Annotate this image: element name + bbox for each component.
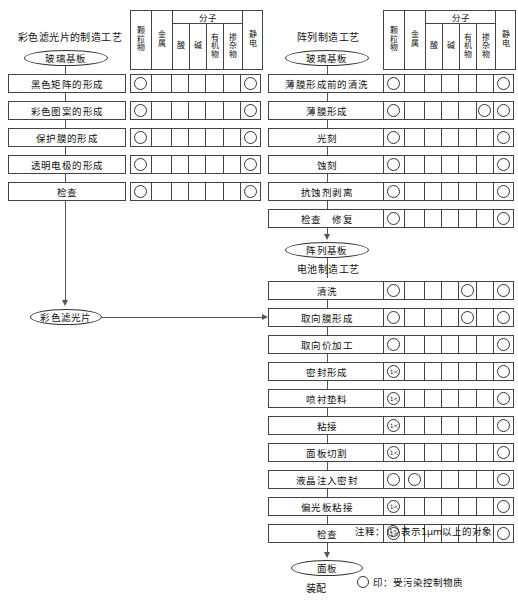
circle-mark-icon [497,338,510,351]
table-cell [189,75,206,92]
table-cell [477,309,495,326]
table-cell [477,282,495,299]
circle-mark-icon [244,185,257,198]
table-cell [459,102,477,119]
table-cell [131,129,152,146]
color-filter-contamination-table: 颗粒物金属分子酸碱有机物掺杂物静电 [130,10,261,202]
header-cell-metal: 金属 [152,11,173,69]
array-contamination-table: 颗粒物金属分子酸碱有机物掺杂物静电 [383,10,514,229]
contaminant-legend: 印：受污染控制物质 [357,575,463,589]
header-label-particle: 颗粒物 [137,27,146,53]
cf-step-box-3: 保护膜的形成 [8,128,126,147]
table-cell [384,156,405,173]
table-cell [442,183,459,200]
table-cell [131,156,152,173]
header-label-acid: 酸 [429,42,438,51]
cell-step-box-7: 面板切割 [268,443,386,462]
table-cell [494,309,513,326]
header-label-static: 静电 [248,31,257,48]
color-filter-table-row-1 [130,74,261,93]
cell-connector-2 [327,327,328,335]
header-cell-static: 静电 [496,11,515,69]
table-cell [477,102,495,119]
table-cell [405,75,426,92]
table-cell [131,183,152,200]
table-cell [405,210,426,227]
cell-step-box-6: 粘接 [268,416,386,435]
table-cell [494,156,513,173]
table-cell [172,102,189,119]
table-cell: 1< [384,390,405,407]
header-label-acid: 酸 [176,42,185,51]
table-cell [459,336,477,353]
table-cell [425,336,442,353]
table-cell [425,444,442,461]
cell-arrow-down [324,552,330,558]
circle-mark-icon [387,212,400,225]
table-cell [224,156,242,173]
table-cell [384,309,405,326]
table-cell [152,129,173,146]
table-cell [459,498,477,515]
table-cell [152,102,173,119]
table-cell [241,183,260,200]
micron-mark-icon: 1< [387,446,400,459]
header-label-molecule: 分子 [426,11,495,24]
table-cell [442,471,459,488]
table-cell [405,309,426,326]
circle-mark-icon [497,419,510,432]
table-cell [241,156,260,173]
table-cell [459,183,477,200]
cf-to-cell-connector [102,317,262,318]
table-cell [459,417,477,434]
micron-note-prefix: 注释： [355,524,385,538]
array-connector-2 [327,120,328,128]
cf-connector-2 [65,120,66,128]
header-molecule-subcolumns: 酸碱有机物掺杂物 [173,24,242,69]
table-header-row: 颗粒物金属分子酸碱有机物掺杂物静电 [383,10,516,70]
table-cell [442,444,459,461]
table-cell [425,75,442,92]
cf-connector-5 [65,201,66,304]
table-cell [206,75,224,92]
table-header-row: 颗粒物金属分子酸碱有机物掺杂物静电 [130,10,263,70]
table-cell [459,210,477,227]
table-cell [224,183,242,200]
table-cell [477,471,495,488]
table-cell [405,444,426,461]
table-cell [442,102,459,119]
table-cell [425,183,442,200]
array-table-row-2 [383,101,514,120]
cell-connector-9 [327,516,328,524]
table-cell [172,129,189,146]
header-label-metal: 金属 [158,31,167,48]
table-cell [442,336,459,353]
table-cell [494,444,513,461]
micron-mark-icon: 1< [387,500,400,513]
table-cell [494,390,513,407]
table-cell [442,282,459,299]
table-cell [172,75,189,92]
table-cell [224,102,242,119]
table-cell [405,282,426,299]
header-label-organic: 有机物 [463,34,472,60]
header-cell-acid: 酸 [426,24,443,69]
header-label-static: 静电 [501,31,510,48]
table-cell [425,417,442,434]
table-cell [241,75,260,92]
table-cell [459,75,477,92]
cell-end-node: 面板 [291,560,363,576]
table-cell [405,336,426,353]
circle-mark-icon [497,158,510,171]
cell-step-box-4: 密封形成 [268,362,386,381]
cell-table-row-3 [383,335,514,354]
cf-connector-3 [65,147,66,155]
header-cell-dopant: 掺杂物 [477,24,495,69]
color-filter-table-row-4 [130,155,261,174]
cf-step-box-2: 彩色图案的形成 [8,101,126,120]
circle-mark-icon [461,284,474,297]
micron-note: 注释： 1< 表示1μm以上的对象 [355,524,492,538]
cf-connector-0 [65,66,66,74]
array-process-title: 阵列制造工艺 [297,32,359,44]
table-cell [405,390,426,407]
